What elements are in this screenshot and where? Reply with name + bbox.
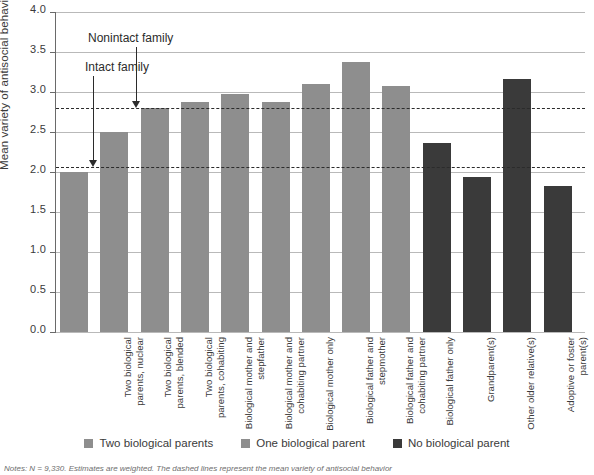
chart-legend: Two biological parentsOne biological par… bbox=[0, 437, 594, 449]
x-axis-tick-label: Biological father only bbox=[444, 337, 458, 433]
y-axis-tick-label: 2.0 bbox=[30, 164, 46, 175]
x-axis-tick-label: Biological father and cohabiting partner bbox=[404, 337, 418, 433]
annotation-arrow-shaft bbox=[93, 76, 94, 161]
gridline bbox=[56, 12, 585, 13]
bar[interactable] bbox=[302, 84, 330, 332]
bar[interactable] bbox=[100, 132, 128, 332]
x-axis-tick-label: Grandparent(s) bbox=[485, 337, 499, 433]
y-axis-label: Mean variety of antisocial behavior bbox=[0, 0, 10, 170]
bar[interactable] bbox=[382, 86, 410, 332]
legend-swatch-icon bbox=[84, 439, 93, 448]
bar[interactable] bbox=[60, 172, 88, 332]
legend-label: Two biological parents bbox=[99, 437, 213, 449]
legend-swatch-icon bbox=[393, 439, 402, 448]
y-axis-tick-mark bbox=[50, 132, 56, 133]
bar[interactable] bbox=[503, 79, 531, 332]
annotation-label: Nonintact family bbox=[88, 31, 173, 45]
y-axis-tick-mark bbox=[50, 52, 56, 53]
y-axis-tick-mark bbox=[50, 212, 56, 213]
legend-label: No biological parent bbox=[408, 437, 510, 449]
x-axis-tick-label: Adoptive or foster parent(s) bbox=[565, 337, 579, 433]
y-axis-tick-mark bbox=[50, 92, 56, 93]
bar[interactable] bbox=[262, 102, 290, 332]
y-axis-tick-mark bbox=[50, 332, 56, 333]
gridline bbox=[56, 332, 585, 333]
y-axis-tick-label: 4.0 bbox=[30, 4, 46, 15]
x-axis-tick-label: Two biological parents, cohabiting bbox=[203, 337, 217, 433]
legend-item[interactable]: No biological parent bbox=[393, 437, 510, 449]
x-axis-tick-label: Biological mother and stepfather bbox=[243, 337, 257, 433]
y-axis-tick-label: 3.5 bbox=[30, 44, 46, 55]
x-axis-tick-label: Biological mother and cohabiting partner bbox=[283, 337, 297, 433]
legend-item[interactable]: Two biological parents bbox=[84, 437, 213, 449]
legend-item[interactable]: One biological parent bbox=[241, 437, 365, 449]
bar[interactable] bbox=[463, 177, 491, 332]
bar[interactable] bbox=[221, 94, 249, 332]
bar[interactable] bbox=[141, 108, 169, 332]
bar[interactable] bbox=[423, 143, 451, 332]
x-axis-tick-label: Biological mother only bbox=[324, 337, 338, 433]
y-axis-tick-mark bbox=[50, 172, 56, 173]
bar[interactable] bbox=[342, 62, 370, 332]
x-axis-tick-label: Biological father and stepmother bbox=[364, 337, 378, 433]
y-axis-tick-mark bbox=[50, 252, 56, 253]
figure-notes: Notes: N = 9,330. Estimates are weighted… bbox=[4, 464, 590, 475]
annotation-arrow-shaft bbox=[136, 47, 137, 102]
bar[interactable] bbox=[544, 186, 572, 332]
x-axis-tick-label: Two biological parents, blended bbox=[162, 337, 176, 433]
legend-label: One biological parent bbox=[256, 437, 365, 449]
annotation-arrow-head-icon bbox=[89, 160, 97, 167]
y-axis-tick-label: 2.5 bbox=[30, 124, 46, 135]
y-axis-tick-label: 0.0 bbox=[30, 324, 46, 335]
annotation-label: Intact family bbox=[85, 60, 149, 74]
y-axis-tick-label: 0.5 bbox=[30, 284, 46, 295]
y-axis-tick-mark bbox=[50, 292, 56, 293]
y-axis-tick-label: 3.0 bbox=[30, 84, 46, 95]
y-axis-tick-label: 1.5 bbox=[30, 204, 46, 215]
legend-swatch-icon bbox=[241, 439, 250, 448]
bar[interactable] bbox=[181, 102, 209, 332]
y-axis-tick-mark bbox=[50, 12, 56, 13]
reference-line bbox=[56, 108, 585, 109]
x-axis-tick-label: Other older relative(s) bbox=[525, 337, 539, 433]
y-axis-tick-label: 1.0 bbox=[30, 244, 46, 255]
x-axis-tick-label: Two biological parents, nuclear bbox=[122, 337, 136, 433]
reference-line bbox=[56, 167, 585, 168]
antisocial-behavior-bar-chart: Mean variety of antisocial behavior 0.00… bbox=[0, 0, 594, 475]
annotation-arrow-head-icon bbox=[132, 101, 140, 108]
